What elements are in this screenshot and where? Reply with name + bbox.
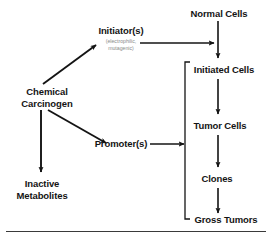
node-initiator-note-line2: mutagenic) — [108, 45, 134, 51]
node-initiator-note-line1: (electrophilic, — [106, 38, 137, 44]
figure-canvas: Chemical Carcinogen Inactive Metabolites… — [0, 0, 272, 241]
node-clones: Clones — [194, 173, 240, 185]
node-gross-tumors: Gross Tumors — [190, 214, 262, 226]
footer-divider — [6, 231, 266, 232]
node-normal-cells: Normal Cells — [186, 8, 252, 20]
progression-bracket — [185, 62, 190, 219]
node-inactive-metabolites-line1: Inactive — [25, 178, 60, 189]
node-promoter: Promoter(s) — [90, 138, 152, 150]
node-initiated-cells: Initiated Cells — [189, 64, 259, 76]
node-inactive-metabolites: Inactive Metabolites — [0, 178, 84, 201]
node-chemical-carcinogen-line2: Carcinogen — [21, 98, 72, 109]
node-chemical-carcinogen-line1: Chemical — [26, 86, 67, 97]
node-inactive-metabolites-line2: Metabolites — [16, 190, 67, 201]
node-initiator: Initiator(s) — [92, 25, 150, 37]
node-initiator-note: (electrophilic, mutagenic) — [92, 38, 150, 52]
edge-carcinogen-to-initiator — [43, 45, 96, 84]
node-tumor-cells: Tumor Cells — [189, 120, 251, 132]
node-chemical-carcinogen: Chemical Carcinogen — [6, 86, 88, 109]
